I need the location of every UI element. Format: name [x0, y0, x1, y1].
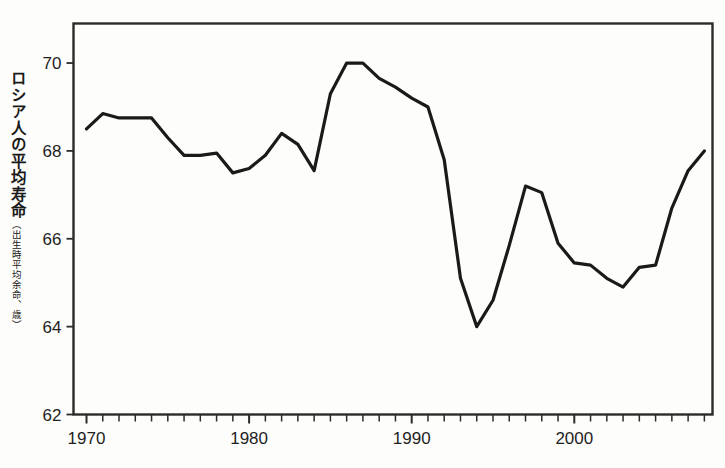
- x-axis-tick-labels: 1970198019902000: [68, 429, 594, 448]
- data-series-layer: [87, 63, 705, 327]
- x-tick-label: 1980: [230, 429, 268, 448]
- y-tick-label: 62: [43, 406, 62, 425]
- x-axis-tick-marks: [87, 415, 705, 424]
- line-chart-plot: 6264666870 1970198019902000: [0, 0, 725, 468]
- chart-container: ロシア人の平均寿命 （出生時平均余命、歳） 6264666870 1970198…: [0, 0, 725, 468]
- x-tick-label: 1970: [68, 429, 106, 448]
- data-line-life-expectancy: [87, 63, 705, 327]
- x-tick-label: 2000: [555, 429, 593, 448]
- y-tick-label: 68: [43, 142, 62, 161]
- y-tick-label: 64: [43, 318, 62, 337]
- y-tick-label: 66: [43, 230, 62, 249]
- x-tick-label: 1990: [393, 429, 431, 448]
- y-tick-label: 70: [43, 54, 62, 73]
- y-axis-tick-labels: 6264666870: [43, 54, 62, 424]
- plot-frame: [74, 24, 713, 415]
